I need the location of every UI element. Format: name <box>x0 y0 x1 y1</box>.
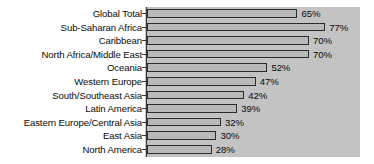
category-label: Oceania <box>107 61 142 75</box>
bar-row: Eastern Europe/Central Asia32% <box>0 116 374 130</box>
bar-value-label: 28% <box>216 143 235 157</box>
bar <box>147 77 256 86</box>
bar-value-label: 30% <box>220 129 239 143</box>
bar-row: Oceania52% <box>0 61 374 75</box>
bar-value-label: 70% <box>313 48 332 62</box>
bar-value-label: 42% <box>248 89 267 103</box>
category-label: East Asia <box>103 129 142 143</box>
bar-row: East Asia30% <box>0 129 374 143</box>
bar <box>147 23 325 32</box>
bar <box>147 50 309 59</box>
bar <box>147 118 221 127</box>
bar-value-label: 52% <box>271 61 290 75</box>
bar-row: Global Total65% <box>0 7 374 21</box>
bar <box>147 104 237 113</box>
bar-value-label: 39% <box>241 102 260 116</box>
bar-chart: Global Total65%Sub-Saharan Africa77%Cari… <box>0 0 374 164</box>
bar <box>147 91 244 100</box>
bar <box>147 9 297 18</box>
bar-value-label: 77% <box>329 21 348 35</box>
category-label: Caribbean <box>99 34 142 48</box>
bar <box>147 63 267 72</box>
bar-row: Sub-Saharan Africa77% <box>0 21 374 35</box>
bar <box>147 145 212 154</box>
bar-row: Latin America39% <box>0 102 374 116</box>
category-label: North Africa/Middle East <box>41 48 142 62</box>
bar-value-label: 70% <box>313 34 332 48</box>
category-label: Global Total <box>93 7 142 21</box>
category-label: South/Southeast Asia <box>52 89 142 103</box>
bar-rows-container: Global Total65%Sub-Saharan Africa77%Cari… <box>0 7 374 157</box>
category-label: Eastern Europe/Central Asia <box>24 116 142 130</box>
category-label: Sub-Saharan Africa <box>61 21 142 35</box>
category-label: Western Europe <box>74 75 142 89</box>
bar-row: Western Europe47% <box>0 75 374 89</box>
bar-value-label: 47% <box>260 75 279 89</box>
bar-row: Caribbean70% <box>0 34 374 48</box>
bar-row: South/Southeast Asia42% <box>0 89 374 103</box>
category-label: North America <box>83 143 142 157</box>
bar-value-label: 65% <box>301 7 320 21</box>
bar-value-label: 32% <box>225 116 244 130</box>
bar-row: North America28% <box>0 143 374 157</box>
bar <box>147 131 216 140</box>
bar-row: North Africa/Middle East70% <box>0 48 374 62</box>
category-label: Latin America <box>85 102 142 116</box>
bar <box>147 36 309 45</box>
